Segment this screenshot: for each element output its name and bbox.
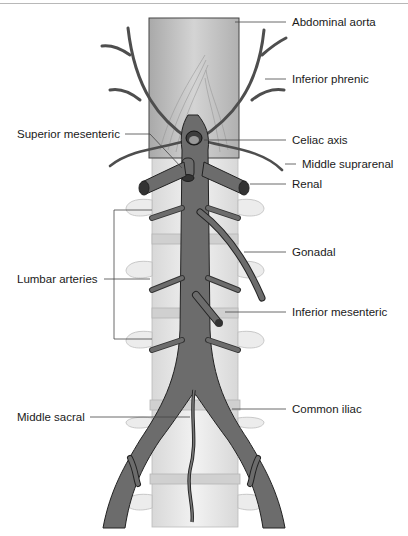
label-lumbar-arteries: Lumbar arteries: [17, 273, 98, 286]
label-middle-suprarenal: Middle suprarenal: [302, 158, 393, 171]
label-celiac-axis: Celiac axis: [292, 134, 348, 147]
label-renal: Renal: [292, 178, 322, 191]
label-superior-mesenteric: Superior mesenteric: [17, 128, 120, 141]
label-middle-sacral: Middle sacral: [17, 411, 85, 424]
inferior-mesenteric-end: [215, 319, 223, 327]
label-gonadal: Gonadal: [292, 246, 335, 259]
label-inferior-mesenteric: Inferior mesenteric: [292, 306, 387, 319]
label-common-iliac: Common iliac: [292, 403, 362, 416]
label-abdominal-aorta: Abdominal aorta: [292, 16, 376, 29]
celiac-lumen: [189, 136, 199, 144]
label-inferior-phrenic: Inferior phrenic: [292, 73, 369, 86]
